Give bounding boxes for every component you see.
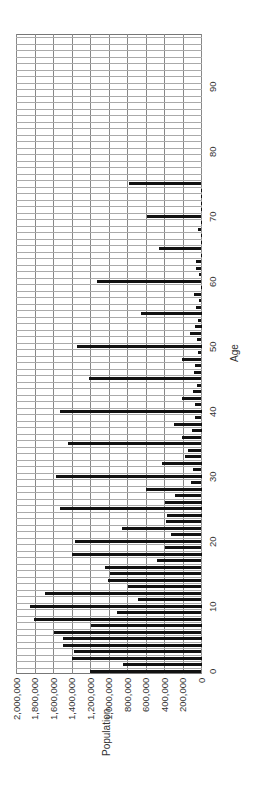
horizontal-gridline [16, 317, 202, 318]
bar-age-61 [199, 273, 202, 276]
horizontal-gridline [16, 297, 202, 298]
horizontal-gridline [16, 427, 202, 428]
population-tick-label: 200,000 [177, 678, 188, 712]
horizontal-gridline [16, 232, 202, 233]
vertical-gridline [35, 34, 36, 674]
bar-age-68 [198, 228, 201, 231]
horizontal-gridline [16, 323, 202, 324]
bar-age-7 [91, 624, 202, 627]
age-tick-label: 60 [207, 276, 218, 287]
horizontal-gridline [16, 330, 202, 331]
age-tick-label: 70 [207, 211, 218, 222]
horizontal-gridline [16, 414, 202, 415]
population-tick-label: 1,200,000 [85, 678, 96, 720]
population-axis-title: Population [101, 708, 112, 755]
bar-age-57 [199, 299, 202, 302]
vertical-gridline [72, 34, 73, 674]
horizontal-gridline [16, 193, 202, 194]
bar-age-47 [195, 364, 201, 367]
horizontal-gridline [16, 154, 202, 155]
bar-age-55 [141, 312, 201, 315]
bar-age-40 [60, 410, 201, 413]
horizontal-gridline [16, 239, 202, 240]
bar-age-70 [147, 215, 201, 218]
bar-age-11 [138, 598, 202, 601]
bar-age-36 [182, 436, 202, 439]
bar-age-48 [182, 358, 202, 361]
bar-age-12 [45, 592, 201, 595]
bar-age-29 [191, 481, 201, 484]
bar-age-66 [201, 241, 202, 244]
horizontal-gridline [16, 174, 202, 175]
horizontal-gridline [16, 122, 202, 123]
bar-age-67 [201, 234, 202, 237]
horizontal-gridline [16, 161, 202, 162]
bar-age-52 [190, 332, 201, 335]
bar-age-23 [166, 520, 201, 523]
bar-age-25 [60, 507, 201, 510]
horizontal-gridline [16, 167, 202, 168]
horizontal-gridline [16, 219, 202, 220]
bar-age-14 [108, 579, 201, 582]
age-tick-label: 50 [207, 341, 218, 352]
bar-age-62 [196, 267, 201, 270]
horizontal-gridline [16, 76, 202, 77]
horizontal-gridline [16, 401, 202, 402]
bar-age-53 [195, 325, 202, 328]
bar-age-43 [193, 390, 202, 393]
bar-age-44 [197, 384, 201, 387]
bar-age-45 [89, 377, 201, 380]
bar-age-20 [75, 540, 202, 543]
bar-age-33 [185, 455, 202, 458]
bar-age-51 [197, 338, 201, 341]
horizontal-gridline [16, 63, 202, 64]
horizontal-gridline [16, 135, 202, 136]
bar-age-30 [56, 475, 202, 478]
horizontal-gridline [16, 395, 202, 396]
population-by-age-chart: 0200,000400,000600,000800,0001,000,0001,… [0, 0, 261, 791]
horizontal-gridline [16, 447, 202, 448]
population-tick-label: 800,000 [122, 678, 133, 712]
bar-age-9 [117, 611, 201, 614]
age-tick-label: 0 [207, 668, 218, 673]
horizontal-gridline [16, 362, 202, 363]
bar-age-27 [175, 494, 201, 497]
horizontal-gridline [16, 102, 202, 103]
bar-age-56 [196, 306, 201, 309]
bar-age-38 [174, 423, 202, 426]
horizontal-gridline [16, 44, 202, 45]
bar-age-2 [72, 657, 202, 660]
population-tick-label: 1,400,000 [66, 678, 77, 720]
horizontal-gridline [16, 336, 202, 337]
bar-age-50 [77, 345, 202, 348]
age-tick-label: 30 [207, 471, 218, 482]
bar-age-18 [72, 553, 202, 556]
bar-age-16 [105, 566, 201, 569]
bar-age-41 [195, 403, 201, 406]
bar-age-26 [165, 501, 202, 504]
bar-age-13 [128, 585, 201, 588]
horizontal-gridline [16, 492, 202, 493]
horizontal-gridline [16, 109, 202, 110]
horizontal-gridline [16, 265, 202, 266]
age-tick-label: 10 [207, 601, 218, 612]
horizontal-gridline [16, 187, 202, 188]
age-axis-title: Age [229, 344, 240, 362]
age-tick-label: 90 [207, 81, 218, 92]
bar-age-17 [157, 559, 201, 562]
bar-age-35 [68, 442, 201, 445]
horizontal-gridline [16, 258, 202, 259]
population-tick-label: 400,000 [159, 678, 170, 712]
bar-age-31 [193, 468, 201, 471]
vertical-gridline [16, 34, 17, 674]
bar-age-6 [54, 631, 201, 634]
bar-age-0 [90, 670, 202, 673]
bar-age-21 [171, 533, 202, 536]
bar-age-5 [63, 637, 202, 640]
horizontal-gridline [16, 89, 202, 90]
bar-age-59 [201, 286, 202, 289]
bar-age-37 [192, 429, 201, 432]
bar-age-32 [162, 462, 201, 465]
horizontal-gridline [16, 83, 202, 84]
bar-age-10 [30, 605, 201, 608]
